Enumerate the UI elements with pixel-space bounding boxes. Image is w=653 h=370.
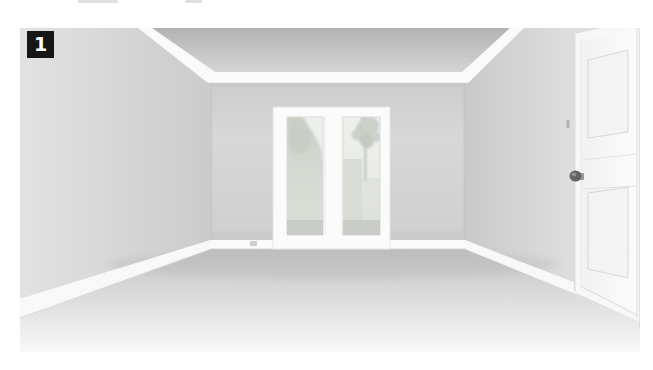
room-photo: 1 (20, 28, 640, 352)
exterior-ground-band (287, 220, 323, 235)
hedge-shade (288, 126, 310, 154)
side-door-panel-top (588, 50, 628, 138)
wall-outlet (250, 241, 257, 246)
exterior-ground-band (343, 220, 380, 235)
badge-label: 1 (34, 35, 47, 54)
glass-lower-tint (343, 178, 380, 222)
page: 1 (0, 0, 653, 370)
room-render (20, 28, 640, 352)
image-number-badge: 1 (27, 31, 54, 58)
cropped-text-artifact (78, 0, 118, 3)
door-lock (567, 120, 570, 128)
tree-trunk (364, 144, 366, 182)
crown-molding-back (208, 72, 468, 83)
cropped-text-artifact (185, 0, 202, 3)
side-door-panel-bottom (588, 187, 628, 278)
glass-lower-tint (287, 178, 323, 222)
